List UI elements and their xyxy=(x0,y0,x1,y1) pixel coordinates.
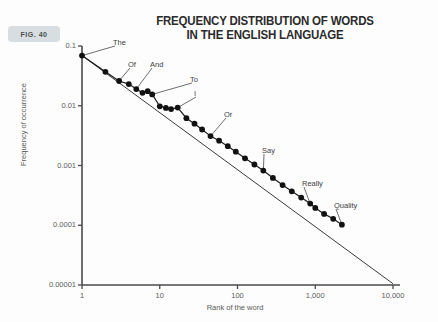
y-tick-label: 0.0001 xyxy=(18,220,76,229)
data-series xyxy=(79,53,345,228)
data-point xyxy=(103,69,109,75)
point-annotation-label: Of xyxy=(128,60,136,69)
x-tick-label: 100 xyxy=(213,291,263,300)
figure-container: FIG. 40 FREQUENCY DISTRIBUTION OF WORDS … xyxy=(0,0,438,322)
data-point xyxy=(79,53,85,59)
x-tick-label: 1,000 xyxy=(290,291,340,300)
data-point xyxy=(149,92,155,98)
data-point xyxy=(140,90,146,96)
x-axis-label: Rank of the word xyxy=(145,303,325,312)
y-tick-label: 0.1 xyxy=(18,41,76,50)
x-tick-label: 1 xyxy=(57,291,107,300)
data-point xyxy=(208,133,214,139)
point-annotation-label: Quality xyxy=(334,201,357,210)
fit-line-segment xyxy=(82,56,393,284)
leader-line xyxy=(152,83,192,94)
y-tick-label: 0.001 xyxy=(18,161,76,170)
data-point xyxy=(192,121,198,127)
data-point xyxy=(339,222,345,228)
data-point xyxy=(280,182,286,188)
data-point xyxy=(126,81,132,87)
y-tick-label: 0.01 xyxy=(18,101,76,110)
x-tick-label: 10 xyxy=(135,291,185,300)
data-point xyxy=(242,155,248,161)
data-point xyxy=(233,149,239,155)
point-annotation-label: To xyxy=(190,75,198,84)
fit-line xyxy=(82,56,393,284)
point-annotation-label: The xyxy=(113,38,126,47)
data-point xyxy=(157,103,163,109)
leader-line xyxy=(211,118,226,136)
y-tick-label: 0.00001 xyxy=(18,280,76,289)
data-point xyxy=(199,127,205,133)
data-point xyxy=(307,201,313,207)
data-point xyxy=(298,195,304,201)
data-point xyxy=(175,105,181,111)
data-point xyxy=(184,115,190,121)
data-point xyxy=(168,106,174,112)
data-point xyxy=(252,162,258,168)
data-point xyxy=(225,143,231,149)
data-point xyxy=(312,205,318,211)
data-point xyxy=(289,188,295,194)
leader-line xyxy=(136,68,152,89)
data-point xyxy=(216,138,222,144)
point-annotation-label: And xyxy=(150,60,163,69)
data-point xyxy=(116,78,122,84)
point-annotation-label: Really xyxy=(302,179,323,188)
leader-line xyxy=(178,97,196,108)
data-point xyxy=(163,105,169,111)
data-point xyxy=(133,86,139,92)
point-annotation-label: Say xyxy=(262,146,275,155)
point-annotation-label: I xyxy=(194,89,196,98)
leader-line xyxy=(82,46,115,56)
data-point xyxy=(260,168,266,174)
point-annotation-label: Or xyxy=(224,110,232,119)
data-point xyxy=(330,216,336,222)
data-point xyxy=(321,211,327,217)
x-tick-label: 10,000 xyxy=(368,291,418,300)
data-point xyxy=(270,175,276,181)
